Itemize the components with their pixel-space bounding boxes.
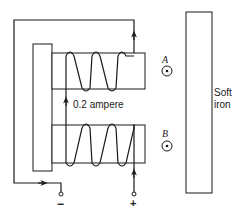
soft-iron-bar bbox=[186, 12, 212, 193]
soft-iron-label-line1: Soft bbox=[214, 87, 232, 98]
negative-terminal bbox=[59, 192, 63, 196]
point-b-label: B bbox=[162, 128, 168, 139]
current-label: 0.2 ampere bbox=[73, 99, 124, 110]
yoke-bar bbox=[33, 44, 52, 171]
negative-terminal-label: − bbox=[57, 197, 64, 211]
positive-terminal bbox=[132, 192, 136, 196]
point-b-field-symbol bbox=[162, 141, 172, 151]
electromagnet-diagram: − + 0.2 ampere A B Soft iron bbox=[0, 0, 242, 218]
point-a-label: A bbox=[161, 54, 169, 65]
soft-iron-label-line2: iron bbox=[214, 99, 231, 110]
point-a-field-symbol bbox=[162, 66, 172, 76]
positive-terminal-label: + bbox=[130, 197, 136, 209]
